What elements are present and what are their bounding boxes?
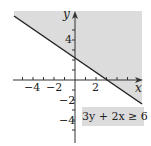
y-axis-label: y [62,7,70,21]
x-tick-label: 2 [92,81,99,94]
y-tick-label: −4 [59,114,75,127]
inequality-annotation: 3y + 2x ≥ 6 [82,107,144,126]
x-tick-label: −2 [46,81,62,94]
x-tick-label: −4 [24,81,40,94]
y-tick-label: 4 [65,33,72,46]
y-tick-label: −2 [59,94,75,107]
x-axis-label: x [135,81,142,95]
